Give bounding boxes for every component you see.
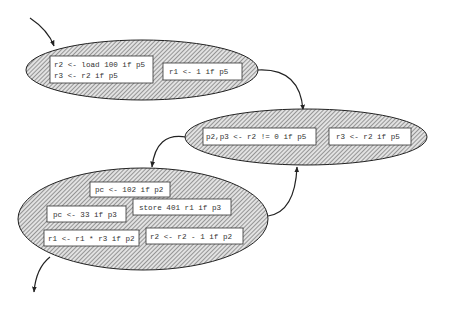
instruction-text: r2 <- load 100 if p5 — [54, 61, 146, 69]
block3-node: pc <- 102 if p2 store 401 r1 if p3 pc <-… — [18, 168, 268, 270]
instruction-box: r2 <- load 100 if p5 r3 <- r2 if p5 — [50, 56, 153, 83]
instruction-text: r3 <- r2 if p5 — [54, 72, 118, 80]
block1-node: r2 <- load 100 if p5 r3 <- r2 if p5 r1 <… — [26, 40, 258, 100]
instruction-text: r1 <- r1 * r3 if p2 — [48, 235, 135, 243]
dataflow-diagram: r2 <- load 100 if p5 r3 <- r2 if p5 r1 <… — [0, 0, 449, 309]
instruction-box: r2 <- r2 - 1 if p2 — [146, 228, 243, 244]
instruction-box: store 401 r1 if p3 — [133, 199, 231, 215]
edge-block2-to-block3 — [152, 136, 186, 167]
instruction-box: pc <- 33 if p3 — [47, 206, 126, 222]
edge-block1-to-block2 — [258, 70, 303, 110]
instruction-box: r1 <- 1 if p5 — [163, 63, 242, 80]
instruction-text: store 401 r1 if p3 — [139, 204, 221, 212]
instruction-text: p2,p3 <- r2 != 0 if p5 — [206, 133, 307, 141]
instruction-box: p2,p3 <- r2 != 0 if p5 — [203, 128, 316, 145]
instruction-text: r2 <- r2 - 1 if p2 — [150, 233, 232, 241]
edge-block3-to-block2 — [268, 167, 297, 216]
edge-block3-to-exit — [34, 257, 50, 292]
instruction-text: r1 <- 1 if p5 — [169, 68, 229, 76]
instruction-box: pc <- 102 if p2 — [90, 182, 170, 197]
block2-node: p2,p3 <- r2 != 0 if p5 r3 <- r2 if p5 — [185, 109, 427, 165]
instruction-text: pc <- 102 if p2 — [95, 186, 164, 194]
instruction-box: r3 <- r2 if p5 — [329, 128, 411, 145]
instruction-text: pc <- 33 if p3 — [53, 211, 117, 219]
edge-entry-to-block1 — [30, 18, 54, 46]
instruction-box: r1 <- r1 * r3 if p2 — [44, 230, 139, 246]
instruction-text: r3 <- r2 if p5 — [336, 133, 400, 141]
